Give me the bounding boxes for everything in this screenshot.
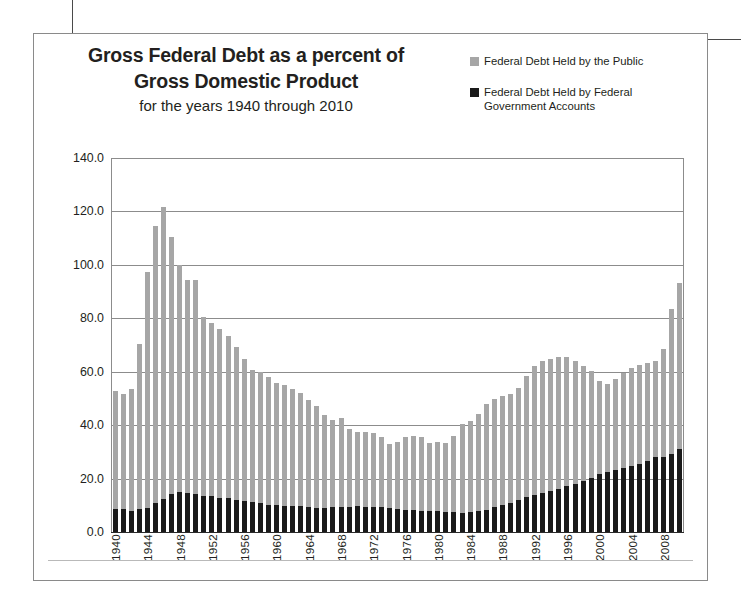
bar-segment-public [266, 377, 271, 505]
bar-segment-government [234, 500, 239, 532]
bar-column [621, 373, 626, 532]
bar-segment-government [532, 495, 537, 532]
bar-segment-public [468, 421, 473, 512]
y-axis-tick-label: 60.0 [80, 365, 104, 379]
bar-segment-government [274, 505, 279, 532]
bar-column [556, 357, 561, 532]
bar-segment-government [597, 474, 602, 532]
bar-column [226, 336, 231, 532]
bar-column [395, 442, 400, 532]
bar-column [258, 372, 263, 532]
bar-column [589, 371, 594, 532]
bar-segment-government [516, 500, 521, 532]
bar-segment-government [411, 510, 416, 532]
bar-column [500, 396, 505, 532]
bar-segment-government [339, 507, 344, 532]
bar-column [669, 309, 674, 532]
bar-segment-public [435, 442, 440, 512]
bar-segment-government [613, 470, 618, 532]
bar-segment-public [411, 436, 416, 510]
bar-segment-public [508, 394, 513, 502]
bar-segment-government [129, 511, 134, 532]
y-axis-tick-label: 80.0 [80, 311, 104, 325]
bar-segment-government [581, 481, 586, 532]
bar-column [201, 317, 206, 532]
bar-segment-public [492, 399, 497, 507]
bar-segment-government [669, 454, 674, 532]
bar-segment-government [508, 503, 513, 532]
x-axis-tick-label: 1956 [238, 534, 251, 561]
x-axis-tick-label: 1984 [464, 534, 477, 561]
bar-segment-public [669, 309, 674, 454]
bar-segment-government [573, 484, 578, 532]
x-axis-tick-label: 2000 [593, 534, 606, 561]
bar-segment-public [476, 414, 481, 511]
bar-column [613, 379, 618, 532]
bar-segment-public [677, 283, 682, 449]
bar-segment-government [137, 509, 142, 532]
bar-segment-government [540, 493, 545, 532]
bar-segment-public [250, 370, 255, 502]
bar-segment-public [645, 363, 650, 461]
bar-segment-public [121, 394, 126, 508]
bar-segment-government [403, 510, 408, 532]
bar-column [427, 443, 432, 532]
bar-column [532, 366, 537, 532]
x-axis-tick-label: 1964 [303, 534, 316, 561]
bar-column [581, 366, 586, 532]
bar-segment-public [282, 385, 287, 505]
bar-column [363, 432, 368, 532]
x-axis-tick-label: 1972 [367, 534, 380, 561]
bar-segment-public [443, 443, 448, 512]
bar-segment-government [258, 503, 263, 532]
bar-segment-government [556, 489, 561, 532]
bar-column [330, 420, 335, 532]
bar-column [637, 365, 642, 532]
bar-segment-government [468, 512, 473, 532]
chart-card: Gross Federal Debt as a percent of Gross… [33, 33, 708, 581]
x-axis-tick-label: 1980 [432, 534, 445, 561]
bar-segment-public [322, 415, 327, 508]
bar-segment-government [266, 505, 271, 532]
bar-segment-government [605, 472, 610, 532]
bar-segment-public [242, 359, 247, 501]
bar-segment-government [443, 512, 448, 532]
bar-segment-public [258, 372, 263, 503]
bar-column [137, 344, 142, 532]
bar-segment-public [621, 373, 626, 468]
bar-column [161, 207, 166, 532]
bar-segment-government [201, 496, 206, 532]
bar-segment-government [290, 506, 295, 532]
bar-column [492, 399, 497, 532]
bar-column [605, 384, 610, 532]
bar-segment-government [282, 506, 287, 532]
bar-segment-government [242, 501, 247, 532]
bar-column [443, 443, 448, 532]
bar-column [540, 361, 545, 532]
x-axis: 1940194419481952195619601964196819721976… [111, 534, 684, 580]
bar-column [661, 349, 666, 532]
bar-column [217, 329, 222, 532]
bar-segment-public [613, 379, 618, 470]
bar-segment-government [548, 491, 553, 532]
bar-segment-public [573, 361, 578, 484]
x-axis-tick-label: 1944 [141, 534, 154, 561]
bar-segment-public [419, 437, 424, 510]
bar-segment-government [645, 461, 650, 532]
bar-segment-public [201, 317, 206, 496]
bar-segment-public [484, 404, 489, 510]
bar-segment-public [581, 366, 586, 481]
bar-segment-public [226, 336, 231, 498]
bar-segment-government [250, 502, 255, 532]
bar-segment-government [435, 511, 440, 532]
bar-column [411, 436, 416, 532]
bar-segment-public [629, 368, 634, 466]
bar-segment-public [661, 349, 666, 457]
bar-segment-public [387, 444, 392, 508]
bar-segment-public [516, 388, 521, 500]
y-axis-tick-label: 20.0 [80, 472, 104, 486]
bar-segment-government [226, 498, 231, 532]
x-axis-baseline [111, 532, 684, 533]
bar-segment-government [217, 498, 222, 532]
bar-column [645, 363, 650, 532]
